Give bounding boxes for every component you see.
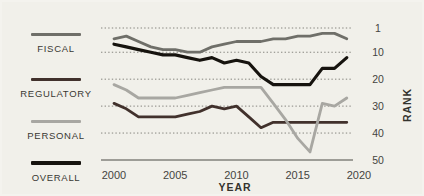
y-tick-1: 1 <box>366 22 390 34</box>
x-axis-label: YEAR <box>205 181 265 194</box>
y-axis-label: RANK <box>401 76 413 134</box>
series-line-overall <box>114 44 347 84</box>
x-tick-2015: 2015 <box>278 169 318 182</box>
series-line-regulatory <box>114 103 347 127</box>
y-tick-20: 20 <box>366 73 390 85</box>
y-tick-30: 30 <box>366 100 390 112</box>
rank-line-chart-card: FISCAL REGULATORY PERSONAL OVERALL YEAR … <box>0 0 424 196</box>
series-line-fiscal <box>114 33 347 52</box>
x-tick-2010: 2010 <box>217 169 257 182</box>
y-tick-10: 10 <box>366 46 390 58</box>
x-tick-2020: 2020 <box>339 169 379 182</box>
x-tick-2005: 2005 <box>155 169 195 182</box>
y-tick-40: 40 <box>366 127 390 139</box>
y-tick-50: 50 <box>366 154 390 166</box>
x-tick-2000: 2000 <box>94 169 134 182</box>
chart-canvas <box>0 0 424 196</box>
